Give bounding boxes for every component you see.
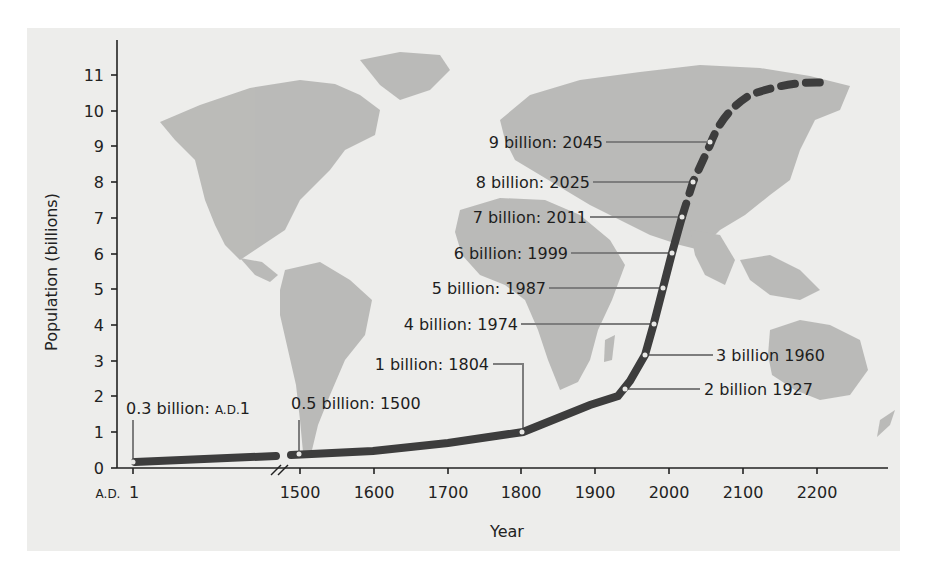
y-axis (111, 40, 117, 468)
x-tick: 1900 (575, 483, 616, 502)
annotation-label: 4 billion: 1974 (404, 315, 518, 334)
x-tick: 1700 (428, 483, 469, 502)
x-tick-labels: A.D. 1 1500 1600 1700 1800 1900 2000 210… (96, 483, 838, 502)
annotation-label: 0.5 billion: 1500 (291, 394, 421, 413)
y-tick: 9 (94, 137, 104, 156)
x-tick: 1600 (354, 483, 395, 502)
annotation-label: 3 billion 1960 (716, 346, 825, 365)
x-tick: 1500 (280, 483, 321, 502)
y-tick: 4 (94, 316, 104, 335)
y-tick: 10 (84, 102, 104, 121)
population-chart: 0 1 2 3 4 5 6 7 8 9 10 11 A.D. 1 1500 16… (0, 0, 930, 579)
x-tick: 2200 (797, 483, 838, 502)
y-tick: 8 (94, 173, 104, 192)
y-tick: 1 (94, 423, 104, 442)
x-tick-ad-prefix: A.D. (96, 487, 121, 501)
y-tick: 6 (94, 245, 104, 264)
y-tick: 0 (94, 459, 104, 478)
annotation-label: 1 billion: 1804 (375, 355, 489, 374)
axis-break-icon (271, 465, 288, 475)
x-tick: 1800 (501, 483, 542, 502)
y-tick: 11 (84, 66, 104, 85)
annotation-label: 8 billion: 2025 (476, 173, 590, 192)
annotation-label: 2 billion 1927 (704, 380, 813, 399)
x-tick: 2100 (723, 483, 764, 502)
annotation-label: 0.3 billion: A.D.1 (126, 399, 250, 418)
x-tick: 1 (129, 483, 139, 502)
x-tick: 2000 (649, 483, 690, 502)
annotation-label: 7 billion: 2011 (473, 208, 587, 227)
annotation-label: 9 billion: 2045 (489, 133, 603, 152)
y-axis-title: Population (billions) (42, 193, 61, 351)
y-tick-labels: 0 1 2 3 4 5 6 7 8 9 10 11 (84, 66, 104, 478)
annotation-label: 5 billion: 1987 (432, 279, 546, 298)
y-tick: 3 (94, 352, 104, 371)
x-axis (117, 468, 888, 474)
y-tick: 7 (94, 209, 104, 228)
annotation-label: 6 billion: 1999 (454, 244, 568, 263)
y-tick: 2 (94, 387, 104, 406)
y-tick: 5 (94, 280, 104, 299)
x-axis-title: Year (489, 522, 524, 541)
